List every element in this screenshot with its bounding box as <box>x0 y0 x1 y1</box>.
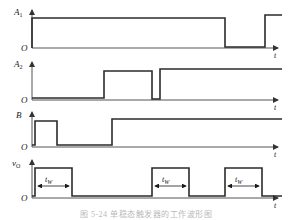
axis-label-b: B <box>16 110 22 120</box>
pulse-width-label-1: tW <box>45 175 53 185</box>
pulse-width-label-2: tW <box>162 175 170 185</box>
waveform-vo <box>32 168 282 196</box>
pulse-width-label-3: tW <box>235 175 243 185</box>
axis-label-a1: A1 <box>13 7 23 18</box>
timing-diagram-figure: A1 O t A2 O t B O t vO O t tW <box>0 0 292 220</box>
panel-b: B O t <box>16 110 282 159</box>
axis-label-a2: A2 <box>13 59 23 70</box>
time-label-b: t <box>274 150 277 159</box>
pulse-width-annotation-1: tW <box>38 175 69 186</box>
pulse-width-annotation-3: tW <box>228 175 259 186</box>
origin-label-b: O <box>21 142 28 152</box>
time-label-a2: t <box>274 103 277 112</box>
waveform-a2 <box>32 69 282 99</box>
panel-a2: A2 O t <box>13 59 282 112</box>
time-label-a1: t <box>274 51 277 60</box>
origin-label-a2: O <box>21 95 28 105</box>
origin-label-vo: O <box>21 193 28 203</box>
waveform-b <box>32 119 282 145</box>
origin-label-a1: O <box>21 43 28 53</box>
panel-a1: A1 O t <box>13 7 282 60</box>
panel-vo: vO O t tW tW tW <box>12 158 282 210</box>
waveform-a1 <box>32 15 282 48</box>
pulse-width-annotation-2: tW <box>155 175 186 186</box>
figure-caption: 图 5-24 单稳态触发器的工作波形图 <box>0 208 292 220</box>
axis-label-vo: vO <box>12 158 21 169</box>
